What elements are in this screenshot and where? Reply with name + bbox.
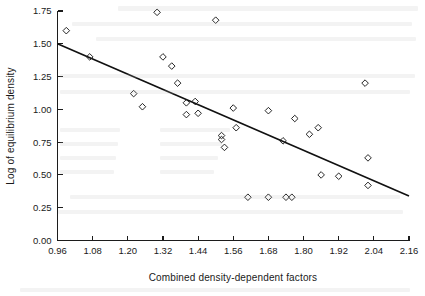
x-tick-label: 1.56	[224, 245, 243, 256]
y-axis-title: Log of equilibrium density	[5, 67, 16, 184]
data-point-marker	[335, 173, 342, 180]
data-point-marker	[160, 54, 167, 61]
y-tick-label: 0.50	[33, 169, 52, 180]
x-tick-label: 1.68	[259, 245, 278, 256]
data-point-marker	[365, 182, 372, 189]
y-tick-label: 1.25	[33, 71, 52, 82]
data-point-marker	[168, 63, 175, 70]
fit-line	[58, 44, 410, 196]
data-point-marker	[306, 131, 313, 138]
data-point-marker	[245, 194, 252, 201]
y-tick-label: 0.25	[33, 202, 52, 213]
y-axis-ticks: 0.000.250.500.751.001.251.501.75	[33, 5, 63, 246]
x-tick-label: 1.20	[119, 245, 138, 256]
data-points	[63, 9, 371, 201]
data-point-marker	[315, 124, 322, 131]
x-axis-title: Combined density-dependent factors	[149, 272, 318, 283]
data-point-marker	[221, 144, 228, 151]
data-point-marker	[183, 111, 190, 118]
data-point-marker	[291, 115, 298, 122]
axes	[58, 11, 410, 241]
y-tick-label: 0.75	[33, 137, 52, 148]
x-tick-label: 2.16	[400, 245, 419, 256]
x-tick-label: 0.96	[48, 245, 67, 256]
data-point-marker	[230, 105, 237, 112]
data-point-marker	[212, 17, 219, 24]
data-point-marker	[365, 155, 372, 162]
data-point-marker	[318, 172, 325, 179]
y-tick-label: 1.50	[33, 38, 52, 49]
x-tick-label: 1.92	[329, 245, 348, 256]
x-tick-label: 1.80	[294, 245, 313, 256]
data-point-marker	[139, 103, 146, 110]
regression-line	[58, 44, 410, 196]
y-tick-label: 1.00	[33, 104, 52, 115]
plot-canvas: 0.000.250.500.751.001.251.501.75 0.961.0…	[0, 0, 425, 296]
data-point-marker	[233, 124, 240, 131]
data-point-marker	[63, 27, 70, 34]
data-point-marker	[195, 110, 202, 117]
data-point-marker	[265, 107, 272, 114]
data-point-marker	[130, 90, 137, 97]
x-tick-label: 2.04	[365, 245, 384, 256]
y-tick-label: 1.75	[33, 5, 52, 16]
data-point-marker	[265, 194, 272, 201]
x-tick-label: 1.44	[189, 245, 208, 256]
data-point-marker	[174, 80, 181, 87]
data-point-marker	[362, 80, 369, 87]
x-tick-label: 1.32	[154, 245, 173, 256]
scatter-plot-figure: 0.000.250.500.751.001.251.501.75 0.961.0…	[0, 0, 425, 296]
x-axis-ticks: 0.961.081.201.321.441.561.681.801.922.04…	[48, 236, 418, 256]
x-tick-label: 1.08	[83, 245, 102, 256]
data-point-marker	[154, 9, 161, 16]
